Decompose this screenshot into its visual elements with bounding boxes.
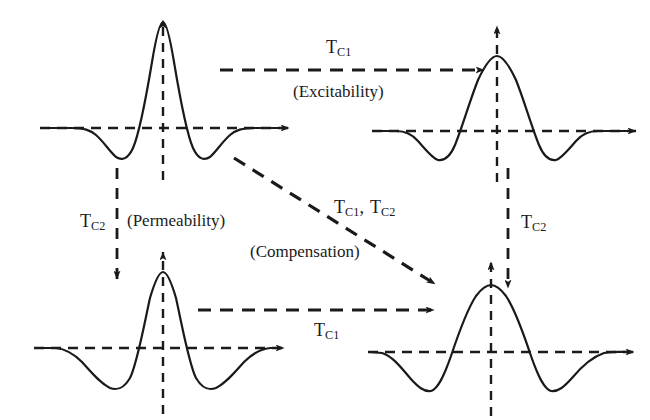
label-compensation-caption: (Compensation) xyxy=(250,243,360,260)
label-tc2-right-symbol: T xyxy=(521,212,532,232)
label-diag-subscript-1: C1 xyxy=(345,205,359,219)
wavelet-top-left xyxy=(40,20,289,180)
label-tc2-right: TC2 xyxy=(521,213,546,234)
diagram-svg xyxy=(0,0,650,420)
label-excitability-caption: (Excitability) xyxy=(293,83,384,100)
wavelet-top-right xyxy=(372,26,636,182)
curve-bottom-left xyxy=(36,272,280,389)
label-tc1-bottom: TC1 xyxy=(314,321,339,342)
label-diag-symbol-1: T xyxy=(334,197,345,217)
label-diag-subscript-2: C2 xyxy=(381,205,395,219)
label-permeability-caption: (Permeability) xyxy=(127,212,225,229)
label-tc2-subscript: C2 xyxy=(91,219,105,233)
label-tc2-right-subscript: C2 xyxy=(532,220,546,234)
figure-canvas: TC1 (Excitability) TC2 (Permeability) TC… xyxy=(0,0,650,420)
arrow-compensation xyxy=(234,158,435,284)
label-tc1-excitability: TC1 xyxy=(326,38,351,59)
curve-top-right xyxy=(374,56,630,160)
label-tc1-subscript: C1 xyxy=(337,45,351,59)
label-diag-separator: , xyxy=(359,197,364,217)
label-tc1-bottom-symbol: T xyxy=(314,320,325,340)
label-diag-symbol-2: T xyxy=(370,197,381,217)
wavelet-bottom-left xyxy=(34,252,284,414)
label-tc2-symbol: T xyxy=(80,211,91,231)
label-tc1-symbol: T xyxy=(326,37,337,57)
wavelet-bottom-right xyxy=(368,262,634,416)
curve-bottom-right xyxy=(370,285,628,391)
curve-top-left xyxy=(44,22,284,159)
label-tc1-tc2-compensation: TC1,TC2 xyxy=(334,198,395,219)
label-tc1-bottom-subscript: C1 xyxy=(325,328,339,342)
label-tc2-permeability: TC2 xyxy=(80,212,105,233)
